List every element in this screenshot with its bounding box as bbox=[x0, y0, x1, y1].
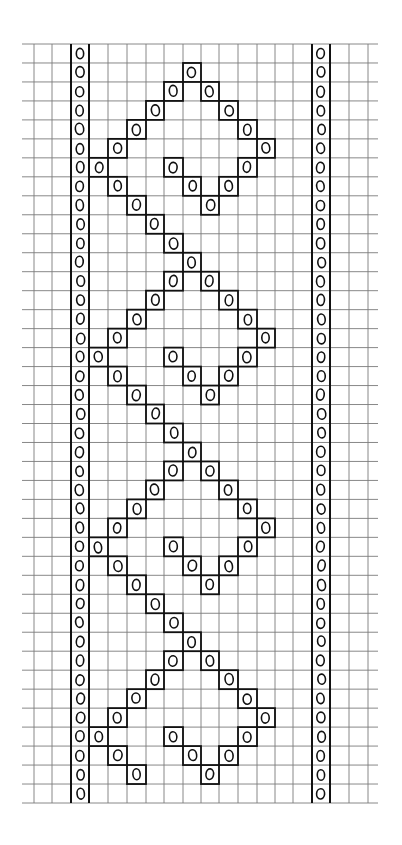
pattern-cell bbox=[108, 139, 127, 158]
yarn-over-icon bbox=[317, 750, 325, 761]
yarn-over-icon bbox=[225, 673, 234, 685]
yarn-over-icon bbox=[75, 181, 83, 192]
pattern-cell bbox=[201, 82, 219, 101]
yarn-over-icon bbox=[261, 522, 270, 534]
yarn-over-icon bbox=[151, 294, 159, 305]
yarn-over-icon bbox=[150, 218, 158, 229]
yarn-over-icon bbox=[188, 637, 196, 648]
yarn-over-icon bbox=[95, 162, 104, 173]
yarn-over-icon bbox=[224, 485, 232, 496]
yarn-over-icon bbox=[224, 560, 233, 572]
yarn-over-icon bbox=[317, 86, 325, 97]
pattern-cell bbox=[238, 120, 257, 139]
yarn-over-icon bbox=[316, 276, 325, 288]
yarn-over-icon bbox=[76, 636, 85, 648]
yarn-over-icon bbox=[76, 199, 84, 211]
yarn-over-icon bbox=[95, 731, 103, 742]
yarn-over-icon bbox=[317, 712, 325, 723]
pattern-cell bbox=[219, 291, 238, 310]
yarn-over-icon bbox=[317, 257, 326, 268]
pattern-cell bbox=[219, 177, 238, 196]
yarn-over-icon bbox=[151, 674, 160, 686]
yarn-over-icon bbox=[224, 370, 233, 382]
yarn-over-icon bbox=[243, 694, 252, 705]
yarn-over-icon bbox=[187, 257, 195, 268]
pattern-cell bbox=[257, 329, 275, 348]
pattern-cell bbox=[219, 480, 238, 499]
pattern-cell bbox=[108, 367, 127, 386]
yarn-over-icon bbox=[76, 48, 84, 58]
pattern-cell bbox=[183, 177, 201, 196]
yarn-over-icon bbox=[317, 371, 325, 382]
yarn-over-icon bbox=[316, 48, 325, 59]
yarn-over-icon bbox=[189, 181, 196, 191]
yarn-over-icon bbox=[169, 85, 177, 96]
yarn-over-icon bbox=[76, 295, 85, 306]
yarn-over-icon bbox=[317, 674, 326, 685]
pattern-cell bbox=[108, 177, 127, 196]
yarn-over-icon bbox=[317, 522, 325, 534]
yarn-over-icon bbox=[76, 313, 85, 325]
yarn-over-icon bbox=[243, 124, 251, 135]
yarn-over-icon bbox=[262, 333, 269, 343]
yarn-over-icon bbox=[261, 713, 269, 723]
yarn-over-icon bbox=[76, 579, 84, 591]
yarn-over-icon bbox=[188, 371, 196, 381]
yarn-over-icon bbox=[76, 333, 85, 344]
yarn-over-icon bbox=[243, 352, 252, 363]
pattern-cell bbox=[183, 442, 201, 461]
pattern-cell bbox=[183, 556, 201, 575]
yarn-over-icon bbox=[76, 598, 85, 609]
yarn-over-icon bbox=[132, 314, 141, 326]
pattern-cell bbox=[89, 727, 108, 746]
yarn-over-icon bbox=[77, 409, 85, 420]
pattern-cell bbox=[164, 272, 183, 291]
pattern-cell bbox=[164, 727, 183, 746]
yarn-over-icon bbox=[75, 466, 84, 477]
yarn-over-icon bbox=[317, 106, 325, 117]
yarn-over-icon bbox=[225, 105, 234, 116]
yarn-over-icon bbox=[133, 503, 141, 514]
pattern-cell bbox=[257, 139, 275, 158]
yarn-over-icon bbox=[316, 143, 325, 154]
yarn-over-icon bbox=[113, 749, 123, 761]
grid-lines bbox=[22, 44, 378, 803]
yarn-over-icon bbox=[94, 541, 103, 553]
yarn-over-icon bbox=[76, 750, 84, 761]
yarn-over-icon bbox=[317, 465, 325, 475]
yarn-over-icon bbox=[317, 770, 325, 781]
yarn-over-icon bbox=[77, 788, 85, 800]
yarn-over-icon bbox=[132, 389, 141, 401]
yarn-over-icon bbox=[206, 199, 215, 210]
yarn-over-icon bbox=[151, 598, 160, 610]
pattern-cell bbox=[201, 651, 219, 670]
pattern-cell bbox=[164, 348, 183, 367]
yarn-over-icon bbox=[168, 655, 177, 666]
yarn-over-icon bbox=[317, 408, 327, 420]
pattern-cell bbox=[238, 689, 257, 708]
yarn-over-icon bbox=[316, 180, 325, 191]
pattern-cell bbox=[146, 480, 164, 499]
yarn-over-icon bbox=[188, 749, 197, 761]
yarn-over-icon bbox=[114, 371, 121, 382]
yarn-over-icon bbox=[316, 238, 325, 249]
pattern-cell bbox=[238, 348, 257, 367]
pattern-cell bbox=[108, 518, 127, 537]
yarn-over-icon bbox=[316, 389, 325, 401]
yarn-over-icon bbox=[318, 124, 325, 134]
yarn-over-icon bbox=[76, 161, 84, 172]
yarn-over-icon bbox=[206, 466, 215, 477]
pattern-cell bbox=[238, 727, 257, 746]
yarn-over-icon bbox=[188, 447, 196, 458]
yarn-over-icon bbox=[224, 180, 233, 191]
yarn-over-icon bbox=[113, 712, 122, 723]
pattern-cell bbox=[127, 310, 146, 329]
yarn-over-icon bbox=[316, 484, 325, 495]
yarn-over-icon bbox=[316, 618, 324, 629]
pattern-cell bbox=[146, 215, 164, 234]
pattern-cell bbox=[201, 765, 219, 784]
yarn-over-icon bbox=[114, 143, 122, 153]
pattern-cell bbox=[201, 461, 219, 480]
yarn-over-icon bbox=[150, 484, 160, 496]
yarn-over-icon bbox=[151, 408, 160, 420]
